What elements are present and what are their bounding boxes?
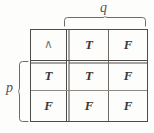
- truth-table-figure: q p ∧ T F T T F F F F: [0, 0, 154, 133]
- truth-table-grid: ∧ T F T T F F F F: [30, 29, 148, 122]
- value-cell-false-false: F: [109, 91, 147, 121]
- table-header-row: ∧ T F: [31, 30, 147, 61]
- value-cell-true-false: F: [109, 61, 147, 91]
- header-cell-q-true: T: [70, 30, 109, 60]
- row-variable-label-p: p: [6, 81, 13, 95]
- header-cell-q-false: F: [109, 30, 147, 60]
- value-cell-true-true: T: [70, 61, 109, 91]
- operator-cell: ∧: [31, 30, 67, 60]
- table-row: T T F: [31, 61, 147, 91]
- row-brace-icon: [18, 60, 29, 127]
- value-cell-false-true: F: [70, 91, 109, 121]
- row-header-p-true: T: [31, 61, 67, 91]
- row-header-p-false: F: [31, 91, 67, 121]
- table-row: F F F: [31, 90, 147, 121]
